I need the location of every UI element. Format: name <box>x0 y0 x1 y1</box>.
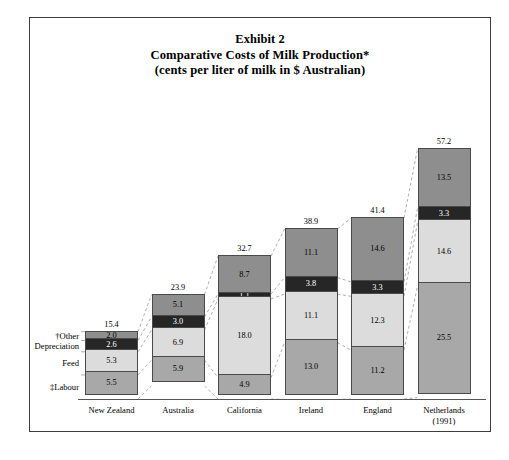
leader-line <box>138 295 152 332</box>
segment-labour-australia[interactable]: 5.9 <box>152 356 205 382</box>
segment-value: 18.0 <box>237 331 252 340</box>
bar-ireland[interactable]: 11.13.811.113.0 <box>285 229 338 395</box>
segment-depreciation-netherlands[interactable]: 3.3 <box>418 206 471 220</box>
x-label-sublabel: (1991) <box>401 416 487 427</box>
total-label-new-zealand: 15.4 <box>85 320 138 329</box>
leader-line <box>404 208 418 282</box>
leader-line <box>338 278 352 282</box>
leader-line <box>404 149 418 218</box>
segment-value: 12.3 <box>370 316 385 325</box>
bar-new-zealand[interactable]: 2.02.65.35.5 <box>85 332 138 395</box>
legend-label-depreciation: Depreciation <box>35 341 79 351</box>
segment-value: 3.8 <box>306 279 316 288</box>
segment-other-australia[interactable]: 5.1 <box>152 294 205 316</box>
leader-line <box>338 343 352 350</box>
segment-value: 14.6 <box>370 244 385 253</box>
total-label-australia: 23.9 <box>152 283 205 292</box>
leader-line <box>271 229 285 256</box>
segment-depreciation-england[interactable]: 3.3 <box>351 280 404 294</box>
leader-line <box>404 286 418 350</box>
segment-feed-australia[interactable]: 6.9 <box>152 327 205 357</box>
x-label-text: Netherlands <box>401 405 487 416</box>
total-label-england: 41.4 <box>351 206 404 215</box>
plot-area: 2.02.65.35.55.13.06.95.98.71.118.04.911.… <box>30 18 492 433</box>
segment-feed-new-zealand[interactable]: 5.3 <box>85 349 138 372</box>
total-label-netherlands: 57.2 <box>418 137 471 146</box>
segment-value: 14.6 <box>437 247 452 256</box>
leader-line <box>271 294 285 299</box>
segment-other-ireland[interactable]: 11.1 <box>285 228 338 277</box>
segment-value: 11.2 <box>370 366 384 375</box>
segment-feed-california[interactable]: 18.0 <box>218 296 271 375</box>
bar-california[interactable]: 8.71.118.04.9 <box>218 256 271 395</box>
chart-frame: Exhibit 2 Comparative Costs of Milk Prod… <box>29 17 491 432</box>
segment-other-california[interactable]: 8.7 <box>218 255 271 293</box>
leader-line <box>205 294 219 317</box>
segment-value: 4.9 <box>239 380 249 389</box>
leader-line <box>138 360 152 375</box>
segment-value: 5.5 <box>106 378 116 387</box>
segment-value: 6.9 <box>173 338 183 347</box>
segment-value: 3.0 <box>173 317 183 326</box>
bar-australia[interactable]: 5.13.06.95.9 <box>152 295 205 382</box>
segment-other-england[interactable]: 14.6 <box>351 217 404 281</box>
segment-depreciation-ireland[interactable]: 3.8 <box>285 276 338 293</box>
segment-value: 13.5 <box>437 173 452 182</box>
segment-labour-ireland[interactable]: 13.0 <box>285 339 338 396</box>
total-label-california: 32.7 <box>218 244 271 253</box>
bar-netherlands[interactable]: 13.53.314.625.5 <box>418 149 471 394</box>
bar-england[interactable]: 14.63.312.311.2 <box>351 218 404 395</box>
segment-value: 5.1 <box>173 300 183 309</box>
legend-label-labour: ‡Labour <box>50 382 79 392</box>
segment-value: 2.6 <box>106 340 116 349</box>
segment-feed-netherlands[interactable]: 14.6 <box>418 219 471 283</box>
leader-line <box>138 386 152 399</box>
segment-value: 3.3 <box>372 283 382 292</box>
leader-line <box>271 278 285 295</box>
leader-line <box>338 218 352 229</box>
leader-line <box>138 330 152 352</box>
segment-feed-england[interactable]: 12.3 <box>351 293 404 347</box>
leader-line <box>404 222 418 296</box>
leader-line <box>205 299 219 330</box>
leader-line <box>138 317 152 341</box>
segment-value: 13.0 <box>304 362 319 371</box>
segment-value: 8.7 <box>239 270 249 279</box>
leader-line <box>205 256 219 294</box>
segment-value: 5.3 <box>106 356 116 365</box>
segment-value: 3.3 <box>439 209 449 218</box>
segment-labour-netherlands[interactable]: 25.5 <box>418 282 471 393</box>
leader-line <box>271 343 285 378</box>
x-label-netherlands: Netherlands(1991) <box>401 405 487 426</box>
legend-label-feed: Feed <box>62 358 79 368</box>
segment-other-netherlands[interactable]: 13.5 <box>418 148 471 207</box>
leader-line <box>338 294 352 296</box>
legend-label-other: †Other <box>55 331 79 341</box>
segment-labour-california[interactable]: 4.9 <box>218 374 271 395</box>
segment-value: 11.1 <box>304 311 318 320</box>
segment-labour-england[interactable]: 11.2 <box>351 346 404 395</box>
segment-value: 5.9 <box>173 364 183 373</box>
segment-value: 25.5 <box>437 333 452 342</box>
leader-line <box>205 386 219 399</box>
axis-baseline <box>78 399 486 400</box>
segment-labour-new-zealand[interactable]: 5.5 <box>85 371 138 395</box>
segment-feed-ireland[interactable]: 11.1 <box>285 291 338 340</box>
leader-line <box>205 360 219 377</box>
segment-value: 11.1 <box>304 248 318 257</box>
total-label-ireland: 38.9 <box>285 217 338 226</box>
